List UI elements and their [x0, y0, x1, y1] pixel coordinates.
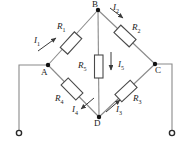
- left-terminal-icon: [16, 130, 21, 135]
- current-I4-arrow: [81, 98, 94, 109]
- resistor-label-R1: R1: [57, 22, 66, 33]
- resistor-label-R4-sub: 4: [61, 99, 64, 105]
- current-label-I1-sub: 1: [37, 41, 40, 47]
- node-label-B: B: [92, 0, 98, 9]
- resistor-label-R5: R5: [78, 61, 87, 72]
- current-label-I3-sub: 3: [119, 110, 122, 116]
- current-label-I1: I1: [34, 36, 40, 47]
- resistor-R5-body: [95, 55, 104, 78]
- resistor-label-R4: R4: [55, 94, 64, 105]
- current-label-I4-sub: 4: [75, 110, 78, 116]
- terminals: [16, 130, 174, 135]
- node-label-D: D: [94, 119, 101, 128]
- current-label-I5-sub: 5: [121, 65, 124, 71]
- resistor-label-R1-sub: 1: [63, 27, 66, 33]
- resistor-label-R3-sub: 3: [139, 99, 142, 105]
- right-terminal-icon: [169, 130, 174, 135]
- current-I1-arrow: [38, 38, 56, 51]
- resistor-label-R2-sub: 2: [138, 28, 141, 34]
- resistor-label-R5-sub: 5: [84, 66, 87, 72]
- current-label-I2: I2: [113, 3, 119, 14]
- current-label-I3: I3: [116, 105, 122, 116]
- current-label-I4: I4: [72, 105, 78, 116]
- resistor-R4-body: [61, 78, 83, 100]
- resistor-label-R2: R2: [132, 23, 141, 34]
- circuit-diagram: A B C D R1 R2 R3 R4 R5 I1 I2 I3 I4 I5: [0, 0, 194, 147]
- current-label-I5: I5: [118, 60, 124, 71]
- resistor-label-R3: R3: [133, 94, 142, 105]
- current-label-I2-sub: 2: [116, 8, 119, 14]
- node-label-C: C: [155, 66, 161, 75]
- node-label-A: A: [41, 68, 48, 77]
- resistor-R1-body: [60, 32, 82, 54]
